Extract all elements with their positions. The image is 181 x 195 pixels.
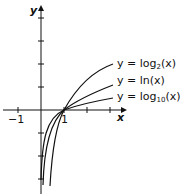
x-axis-label: x [117,112,124,123]
legend-ln: y = ln(x) [117,75,165,86]
x-tick-label-1: 1 [61,114,68,125]
legend-log2: y = log2(x) [117,58,176,73]
y-axis-label: y [30,5,37,16]
legend-log10: y = log10(x) [117,91,181,106]
x-tick-label-neg1: −1 [8,114,24,125]
curve-log2 [50,64,113,186]
